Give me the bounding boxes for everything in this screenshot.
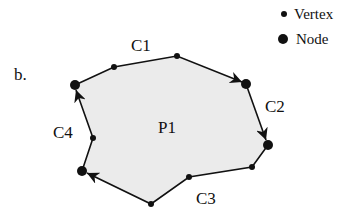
figure-label: b. xyxy=(14,65,27,84)
node xyxy=(70,80,80,90)
vertex xyxy=(186,174,192,180)
vertex xyxy=(148,201,154,207)
node xyxy=(263,140,273,150)
node xyxy=(77,166,87,176)
legend-vertex-icon xyxy=(281,11,287,17)
node xyxy=(241,79,251,89)
polygon-diagram: b. C1 C2 C3 C4 P1 Vertex Node xyxy=(0,0,357,221)
vertex xyxy=(249,164,255,170)
polygon-label: P1 xyxy=(158,118,176,137)
vertex xyxy=(174,53,180,59)
legend-node-icon xyxy=(278,34,288,44)
curve-c3-label: C3 xyxy=(196,189,216,208)
curve-c4-label: C4 xyxy=(53,123,73,142)
curve-c2-label: C2 xyxy=(265,97,285,116)
legend-node-label: Node xyxy=(296,31,329,47)
curve-c1-label: C1 xyxy=(131,36,151,55)
legend-vertex-label: Vertex xyxy=(294,6,334,22)
vertex xyxy=(111,64,117,70)
vertex xyxy=(90,135,96,141)
